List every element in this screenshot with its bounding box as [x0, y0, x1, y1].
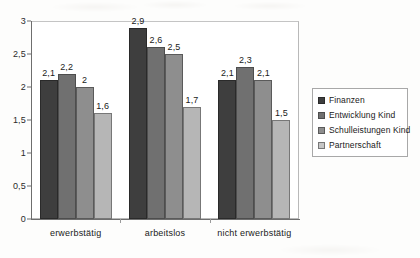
- legend-item-label: Finanzen: [329, 95, 365, 105]
- x-axis-category-label: erwerbstätig: [50, 228, 101, 238]
- legend-swatch-icon: [318, 97, 325, 104]
- bar-value-label: 2,1: [42, 68, 55, 78]
- legend-swatch-icon: [318, 127, 325, 134]
- legend-swatch-icon: [318, 142, 325, 149]
- x-axis-line: [31, 219, 300, 220]
- x-axis-category-label: nicht erwerbstätig: [217, 228, 291, 238]
- x-axis-category-label: arbeitslos: [145, 228, 186, 238]
- bar-value-label: 2,5: [168, 42, 181, 52]
- legend-item-label: Schulleistungen Kind: [329, 125, 410, 135]
- bar-value-label: 2,9: [132, 16, 145, 26]
- bar-value-label: 2,3: [239, 55, 252, 65]
- bar-group-container: [31, 21, 299, 219]
- bar-value-label: 2,1: [221, 68, 234, 78]
- bar-value-label: 1,7: [186, 95, 199, 105]
- x-axis-tick-mark: [120, 219, 121, 223]
- bar-value-label: 2,6: [150, 35, 163, 45]
- bar: [147, 47, 165, 219]
- bar-value-label: 2,2: [60, 62, 73, 72]
- legend-swatch-icon: [318, 112, 325, 119]
- legend-item-label: Partnerschaft: [329, 140, 381, 150]
- legend-item[interactable]: Schulleistungen Kind: [318, 124, 403, 136]
- bar: [58, 74, 76, 219]
- legend-item[interactable]: Entwicklung Kind: [318, 109, 403, 121]
- bar: [94, 113, 112, 219]
- bar: [272, 120, 290, 219]
- bar-value-label: 1,5: [275, 108, 288, 118]
- bar: [183, 107, 201, 219]
- bar: [76, 87, 94, 219]
- legend-item[interactable]: Finanzen: [318, 94, 403, 106]
- bar: [236, 67, 254, 219]
- legend-item-label: Entwicklung Kind: [329, 110, 395, 120]
- bar-value-label: 1,6: [96, 101, 109, 111]
- bar: [218, 80, 236, 219]
- bar: [254, 80, 272, 219]
- bar: [40, 80, 58, 219]
- bar: [165, 54, 183, 219]
- bar-value-label: 2: [82, 75, 87, 85]
- bar: [129, 28, 147, 219]
- x-axis-tick-mark: [210, 219, 211, 223]
- bar-value-label: 2,1: [257, 68, 270, 78]
- chart-legend: Finanzen Entwicklung Kind Schulleistunge…: [312, 88, 408, 157]
- legend-item[interactable]: Partnerschaft: [318, 139, 403, 151]
